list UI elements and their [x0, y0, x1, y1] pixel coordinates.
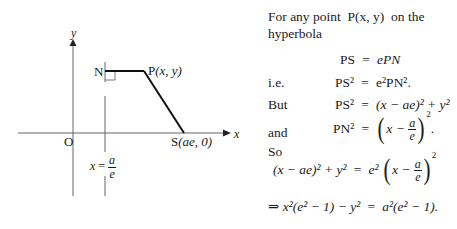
eq6-rhs: a²(e² − 1). — [382, 199, 438, 214]
fraction-denominator: e — [414, 171, 422, 184]
intro-line-1: For any point P(x, y) on the — [268, 10, 424, 24]
eq5-inner: x − — [392, 162, 410, 177]
right-angle-marker — [105, 71, 115, 80]
equals-sign: = — [360, 200, 382, 214]
equation-line-4: PN²=(x − ae)2. — [333, 114, 434, 145]
equation-line-5: (x − ae)² + y²=e² (x − ae)2 — [273, 155, 436, 186]
equation-line-2: PS²=e²PN². — [335, 76, 411, 90]
point-S-coords: (ae, 0) — [178, 134, 212, 149]
eq4-inner: x − — [386, 121, 404, 136]
equals-sign: = — [354, 114, 376, 144]
intro-text-end: on the — [391, 9, 424, 24]
fraction-numerator: a — [108, 154, 116, 168]
eq3-lhs: PS² — [335, 97, 354, 112]
point-P-label: P(x, y) — [148, 64, 182, 77]
eq5-coef: e² — [369, 162, 379, 177]
equals-sign: = — [347, 155, 369, 185]
point-N-label: N — [94, 65, 103, 78]
eq5-fraction: ae — [414, 158, 422, 184]
eq1-rhs: ePN — [377, 52, 400, 67]
intro-point: P(x, y) — [348, 9, 385, 24]
equation-line-6: ⇒ x²(e² − 1) − y²=a²(e² − 1). — [268, 200, 438, 214]
left-paren: ( — [383, 154, 390, 184]
hyperbola-focus-directrix-diagram — [0, 0, 240, 229]
directrix-fraction: ae — [108, 154, 116, 180]
point-S-label: S(ae, 0) — [171, 135, 212, 148]
fraction-numerator: a — [408, 117, 416, 131]
intro-line-2: hyperbola — [268, 27, 322, 41]
eq4-exponent: 2 — [426, 109, 431, 119]
directrix-lhs: x — [90, 159, 95, 173]
equation-line-3: PS²=(x − ae)² + y² — [335, 98, 450, 112]
eq2-lhs: PS² — [335, 75, 354, 90]
fraction-denominator: e — [408, 130, 416, 143]
fraction-denominator: e — [108, 168, 116, 181]
left-paren: ( — [378, 113, 385, 143]
directrix-label: x = ae — [90, 154, 116, 180]
implies-arrow-icon: ⇒ — [268, 199, 279, 214]
y-axis-arrow-icon — [70, 39, 77, 46]
y-axis-label: y — [71, 27, 76, 39]
eq4-lhs: PN² — [333, 121, 354, 136]
eq2-rhs: e²PN². — [376, 75, 411, 90]
equation-line-1: PS=ePN — [340, 53, 400, 67]
eq1-lhs: PS — [340, 52, 355, 67]
equals-sign: = — [355, 53, 377, 67]
segment-PS — [144, 71, 184, 133]
equation-line-3-label: But — [268, 98, 288, 112]
eq6-lhs: x²(e² − 1) − y² — [283, 199, 361, 214]
point-P-coords: (x, y) — [155, 63, 182, 78]
eq4-fraction: ae — [408, 117, 416, 143]
equation-line-2-label: i.e. — [268, 76, 285, 90]
eq3-rhs: (x − ae)² + y² — [376, 97, 450, 112]
intro-text: For any point — [268, 9, 341, 24]
equation-line-4-label: and — [268, 126, 288, 140]
origin-label: O — [64, 135, 73, 148]
right-paren: ) — [418, 113, 425, 143]
x-axis-label: x — [234, 128, 239, 140]
equals-sign: = — [354, 98, 376, 112]
eq4-end: . — [431, 121, 434, 136]
right-paren: ) — [423, 154, 430, 184]
eq5-exponent: 2 — [432, 150, 437, 160]
equals-sign: = — [354, 76, 376, 90]
eq5-lhs: (x − ae)² + y² — [273, 162, 347, 177]
x-axis-arrow-icon — [223, 130, 231, 137]
fraction-numerator: a — [414, 158, 422, 172]
directrix-equals: = — [98, 159, 105, 173]
